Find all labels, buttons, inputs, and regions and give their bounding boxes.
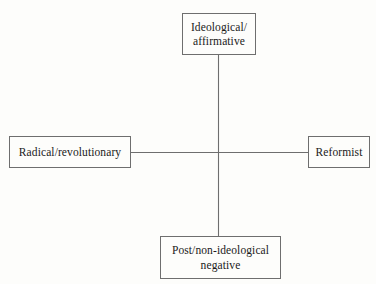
node-top-line1: Ideological/ [191,21,247,33]
node-top-line2: affirmative [193,35,245,47]
node-post-non-ideological-negative: Post/non-ideologicalnegative [160,236,281,279]
node-top-label: Ideological/affirmative [188,20,250,48]
node-radical-revolutionary: Radical/revolutionary [9,136,131,168]
node-right-label: Reformist [313,145,366,159]
node-bottom-line2: negative [201,259,241,271]
node-ideological-affirmative: Ideological/affirmative [182,13,256,55]
node-bottom-label: Post/non-ideologicalnegative [169,243,272,271]
node-bottom-line1: Post/non-ideological [172,244,269,256]
node-left-label: Radical/revolutionary [16,145,124,159]
concept-matrix-diagram: Ideological/affirmative Radical/revoluti… [0,0,376,284]
node-reformist: Reformist [308,136,370,168]
